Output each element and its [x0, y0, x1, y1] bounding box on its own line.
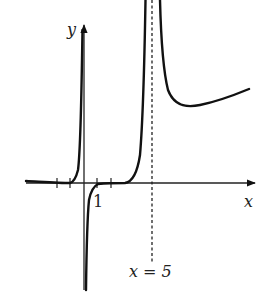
tick-label-one: 1	[93, 194, 103, 210]
asymptote-label: x = 5	[129, 264, 172, 280]
curve-branch-left	[26, 30, 83, 183]
y-axis-label: y	[67, 22, 76, 38]
function-graph	[0, 0, 272, 294]
curve-branch-right	[160, 0, 249, 106]
curve-branch-middle	[86, 0, 146, 290]
function-curve	[26, 0, 249, 290]
x-axis-label: x	[244, 194, 253, 210]
